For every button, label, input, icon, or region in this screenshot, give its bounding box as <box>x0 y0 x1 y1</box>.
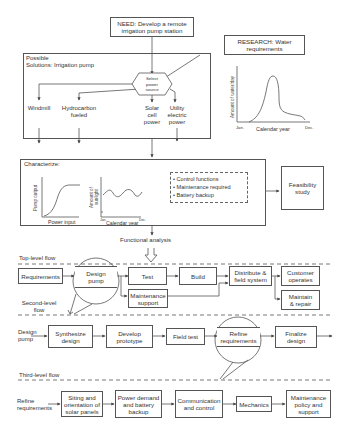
sun-chart-ylabel-2: sunlight <box>94 189 99 205</box>
step-synthesize-design: Synthesize design <box>48 325 93 348</box>
step-refine-l1: Refine <box>230 330 248 337</box>
step-maintenance-l1: Maintenance <box>130 292 165 299</box>
step-build-label: Build <box>191 273 205 280</box>
step-distribute: Distribute & field system <box>229 266 272 286</box>
option-utility: Utility electric power <box>164 105 190 126</box>
step-field-test: Field test <box>166 328 205 345</box>
water-chart-xlabel: Calendar year <box>256 126 290 133</box>
step-siting-orientation: Siting and orientation of solar panels <box>61 391 103 417</box>
water-chart-ylabel: Amount of water/day <box>230 76 235 118</box>
option-utility-l3: power <box>164 119 190 126</box>
step-proto-l2: prototype <box>117 337 143 344</box>
step-refine-requirements: Refine requirements <box>217 327 260 347</box>
step-synth-l2: design <box>61 337 79 344</box>
step-test: Test <box>128 267 167 285</box>
step-distribute-l2: field system <box>234 276 267 283</box>
step-customer-l1: Customer <box>287 269 314 276</box>
step-siting-l3: solar panels <box>65 408 98 415</box>
need-box: NEED: Develop a remote irrigation pump s… <box>110 17 194 37</box>
top-level-flow-label: Top-level flow <box>19 255 55 262</box>
characterize-title: Characterize: <box>24 161 60 168</box>
step-customer-l2: operates <box>288 276 312 283</box>
need-line2: irrigation pump station <box>122 27 183 34</box>
decision-label: Select power source <box>138 76 166 93</box>
pump-chart-ylabel: Pump output <box>33 185 38 211</box>
step-refine-l2: requirements <box>220 337 256 344</box>
step-maintenance-l2: support <box>138 299 159 306</box>
step-maintain-l2: & repair <box>290 300 312 307</box>
decision-line3: source <box>138 87 166 93</box>
third-level-flow-label: Third-level flow <box>19 372 59 379</box>
step-field-label: Field test <box>173 333 198 340</box>
step-finalize-design: Finalize design <box>275 326 317 348</box>
step-power-demand: Power demand and battery backup <box>115 390 162 418</box>
step-communication-control: Communication and control <box>175 390 223 418</box>
option-solar-l2: cell <box>140 112 164 119</box>
option-utility-l1: Utility <box>164 105 190 112</box>
option-solar: Solar cell power <box>140 105 164 126</box>
functional-analysis-label: Functional analysis <box>120 237 171 244</box>
step-maintenance-support: Maintenance support <box>128 289 168 308</box>
sun-chart-xlabel: Calendar year <box>106 220 139 227</box>
step-maintenance-policy: Maintenance policy and support <box>286 390 331 418</box>
step-build: Build <box>179 267 217 285</box>
step-power-l2: and battery <box>123 401 154 408</box>
step-power-l1: Power demand <box>118 394 160 401</box>
step-maint-l2: policy and <box>295 401 323 408</box>
option-hydrocarbon-l2: fueled <box>56 112 102 119</box>
step-proto-l1: Develop <box>118 330 141 337</box>
bullet-control-functions: • Control functions <box>173 175 231 183</box>
step-test-label: Test <box>142 273 153 280</box>
characterize-bullets: • Control functions • Maintenance requir… <box>173 175 231 199</box>
step-final-l2: design <box>287 337 305 344</box>
option-hydrocarbon-l1: Hydrocarbon <box>56 105 102 112</box>
step-maintain-repair: Maintain & repair <box>281 290 320 310</box>
sun-chart-dec: Dec. <box>139 217 146 224</box>
step-mechanics: Mechanics <box>236 396 272 412</box>
step-maintain-l1: Maintain <box>289 293 312 300</box>
option-hydrocarbon: Hydrocarbon fueled <box>56 105 102 119</box>
step-requirements-label: Requirements <box>21 273 60 280</box>
diagram-canvas: NEED: Develop a remote irrigation pump s… <box>0 0 349 432</box>
step-develop-prototype: Develop prototype <box>106 325 153 348</box>
step-comm-l2: and control <box>184 404 215 411</box>
step-maint-l1: Maintenance <box>291 394 326 401</box>
feasibility-line1: Feasibility <box>289 181 317 188</box>
step-distribute-l1: Distribute & <box>235 269 267 276</box>
second-entry-l1: Design <box>18 329 37 336</box>
step-design-pump-l1: Design <box>86 270 105 277</box>
step-customer-operates: Customer operates <box>281 266 320 286</box>
option-solar-l3: power <box>140 119 164 126</box>
research-box: RESEARCH: Water requirements <box>224 35 305 55</box>
step-synth-l1: Synthesize <box>55 330 85 337</box>
second-entry-l2: pump <box>18 336 37 343</box>
solutions-title-2: Solutions: Irrigation pump <box>26 62 94 69</box>
step-maint-l3: support <box>298 408 319 415</box>
step-power-l3: backup <box>129 408 149 415</box>
third-entry-l2: requirements <box>17 405 52 412</box>
step-design-pump: Design pump <box>75 266 117 288</box>
bullet-battery-backup: • Battery backup <box>173 191 231 199</box>
need-line1: NEED: Develop a remote <box>117 20 186 27</box>
research-line1: RESEARCH: Water <box>237 38 291 45</box>
bullet-maintenance-required: • Maintenance required <box>173 183 231 191</box>
feasibility-line2: study <box>295 188 310 195</box>
option-windmill: Windmill <box>24 105 54 112</box>
water-chart-jan: Jan. <box>236 124 244 131</box>
step-comm-l1: Communication <box>178 397 221 404</box>
second-level-l1: Second-level <box>18 300 60 307</box>
solutions-title-1: Possible <box>26 55 49 62</box>
step-requirements: Requirements <box>18 268 63 284</box>
step-final-l1: Finalize <box>285 330 306 337</box>
option-solar-l1: Solar <box>140 105 164 112</box>
research-line2: requirements <box>246 45 282 52</box>
option-utility-l2: electric <box>164 112 190 119</box>
step-design-pump-l2: pump <box>88 277 103 284</box>
option-windmill-label: Windmill <box>24 105 54 112</box>
step-siting-l1: Siting and <box>68 394 96 401</box>
third-level-entry: Refine requirements <box>17 398 52 412</box>
second-level-entry: Design pump <box>18 329 37 343</box>
water-chart-dec: Dec. <box>305 124 314 131</box>
step-siting-l2: orientation of <box>64 401 100 408</box>
third-entry-l1: Refine <box>17 398 52 405</box>
